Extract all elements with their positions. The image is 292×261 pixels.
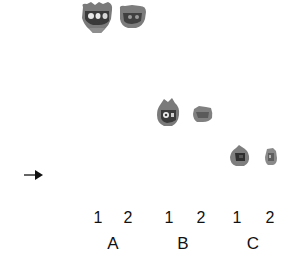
lane-label-a2: 2: [124, 210, 133, 226]
lane-label-b1: 1: [165, 210, 174, 226]
spot-c2: [263, 147, 279, 167]
blot-figure: 1 2 1 2 1 2 A B C: [0, 0, 292, 261]
spot-c1: [228, 144, 252, 169]
group-label-b: B: [177, 235, 188, 252]
arrow-right-icon: [24, 169, 44, 181]
spot-a1: [79, 1, 115, 35]
lane-label-c1: 1: [233, 210, 242, 226]
lane-label-c2: 2: [266, 210, 275, 226]
lane-label-b2: 2: [197, 210, 206, 226]
lane-label-a1: 1: [94, 210, 103, 226]
group-label-c: C: [247, 235, 259, 252]
spot-b2: [191, 105, 214, 124]
spot-a2: [117, 4, 148, 30]
spot-b1: [154, 97, 182, 129]
group-label-a: A: [107, 235, 118, 252]
